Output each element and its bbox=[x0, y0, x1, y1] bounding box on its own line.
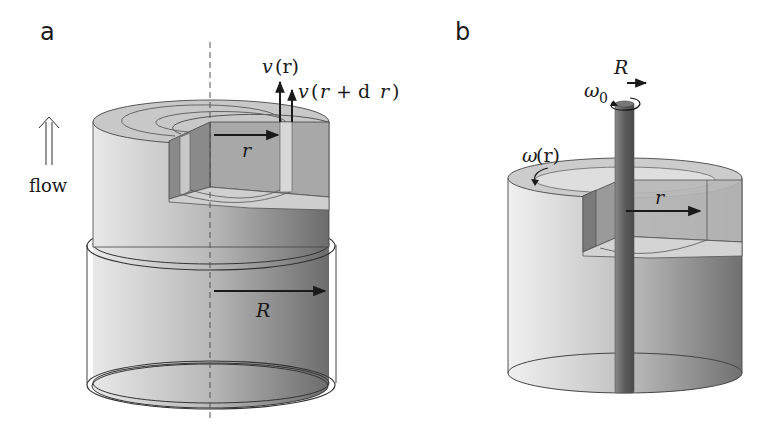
label-rod-omega: ω 0 bbox=[584, 79, 608, 106]
svg-text:r: r bbox=[380, 80, 391, 102]
panel-label-b: b bbox=[455, 18, 470, 46]
panel-label-a: a bbox=[40, 18, 55, 46]
label-fluid-omega: ω (r) bbox=[522, 144, 560, 166]
panel-b: b R bbox=[455, 18, 742, 393]
figure: a bbox=[0, 0, 777, 424]
svg-text:r: r bbox=[320, 80, 331, 102]
svg-text:(: ( bbox=[311, 80, 318, 102]
label-R: R bbox=[255, 299, 270, 321]
label-flow: flow bbox=[29, 175, 68, 196]
svg-text:v: v bbox=[262, 55, 273, 77]
label-v-r: v (r) bbox=[262, 55, 299, 77]
label-rod-radius: R bbox=[613, 56, 628, 78]
svg-text:0: 0 bbox=[599, 90, 608, 106]
svg-text:): ) bbox=[392, 80, 399, 102]
label-v-r-plus-dr: v ( r + d r ) bbox=[298, 80, 399, 102]
svg-text:(r): (r) bbox=[536, 144, 560, 166]
svg-text:ω: ω bbox=[584, 79, 600, 101]
diagram-canvas: a bbox=[0, 0, 777, 424]
cutaway-cylinder bbox=[93, 100, 329, 247]
rotating-rod bbox=[615, 101, 634, 393]
panel-a: a bbox=[29, 18, 399, 420]
label-v-r-arg: (r) bbox=[275, 55, 299, 77]
double-up-arrow-icon bbox=[39, 117, 59, 165]
svg-text:+ d: + d bbox=[336, 80, 370, 102]
svg-text:v: v bbox=[298, 80, 309, 102]
